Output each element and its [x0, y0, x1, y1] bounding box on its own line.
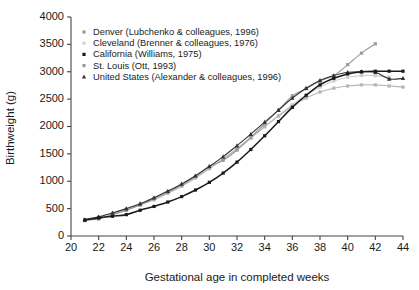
data-point-marker	[180, 195, 183, 198]
x-tick-label: 42	[369, 241, 381, 253]
data-point-marker	[208, 181, 211, 184]
x-axis-title: Gestational age in completed weeks	[145, 271, 330, 283]
x-tick-label: 26	[148, 241, 160, 253]
y-tick-label: 1000	[40, 174, 64, 186]
series-line	[85, 71, 403, 220]
data-point-marker	[222, 171, 225, 174]
series-line	[85, 85, 403, 221]
data-point-marker	[139, 209, 142, 212]
data-point-marker	[97, 216, 100, 219]
legend-item-label: California (Williams, 1975)	[93, 49, 202, 59]
x-tick-label: 32	[231, 241, 243, 253]
y-axis-title: Birthweight (g)	[4, 91, 16, 165]
data-point-marker	[374, 42, 377, 45]
chart-canvas: 05001000150020002500300035004000 2022242…	[0, 0, 419, 290]
data-point-marker	[125, 213, 128, 216]
legend-item-label: Denver (Lubchenko & colleagues, 1996)	[93, 27, 259, 37]
data-point-marker	[249, 136, 252, 139]
data-point-marker	[291, 106, 294, 109]
data-point-marker	[277, 120, 280, 123]
data-point-marker	[360, 74, 363, 77]
legend-item-label: United States (Alexander & colleagues, 1…	[93, 72, 281, 82]
y-tick-label: 3500	[40, 37, 64, 49]
data-point-marker	[346, 84, 349, 87]
x-tick-label: 24	[120, 241, 132, 253]
data-point-marker	[166, 200, 169, 203]
legend-item: California (Williams, 1975)	[82, 49, 201, 59]
data-point-marker	[360, 52, 363, 55]
data-point-marker	[346, 63, 349, 66]
data-point-marker	[346, 72, 349, 75]
chart-legend: Denver (Lubchenko & colleagues, 1996)Cle…	[82, 27, 281, 82]
data-point-marker	[360, 83, 363, 86]
legend-item: Cleveland (Brenner & colleagues, 1976)	[82, 38, 257, 48]
legend-item-label: St. Louis (Ott, 1993)	[93, 61, 176, 71]
y-tick-label: 1500	[40, 147, 64, 159]
data-point-marker	[346, 76, 349, 79]
data-point-marker	[111, 215, 114, 218]
data-point-marker	[401, 70, 404, 73]
series-3	[83, 83, 404, 222]
x-tick-label: 44	[397, 241, 409, 253]
data-point-marker	[318, 83, 321, 86]
birthweight-gestational-age-chart: 05001000150020002500300035004000 2022242…	[0, 0, 419, 290]
x-tick-label: 38	[314, 241, 326, 253]
data-point-marker	[332, 87, 335, 90]
data-point-marker	[152, 205, 155, 208]
data-point-marker	[194, 188, 197, 191]
data-point-marker	[82, 74, 86, 78]
y-tick-label: 2000	[40, 119, 64, 131]
x-tick-label: 40	[342, 241, 354, 253]
x-tick-label: 20	[65, 241, 77, 253]
data-point-marker	[82, 42, 85, 45]
x-tick-label: 36	[286, 241, 298, 253]
legend-item: St. Louis (Ott, 1993)	[82, 61, 176, 71]
y-tick-label: 2500	[40, 92, 64, 104]
data-point-marker	[374, 70, 377, 73]
series-line	[85, 72, 403, 220]
x-tick-label: 22	[93, 241, 105, 253]
data-point-marker	[83, 219, 86, 222]
legend-item: United States (Alexander & colleagues, 1…	[82, 72, 281, 82]
x-tick-label: 34	[259, 241, 271, 253]
data-point-marker	[318, 90, 321, 93]
data-point-marker	[235, 148, 238, 151]
data-point-marker	[360, 70, 363, 73]
series-2	[83, 70, 404, 222]
data-point-marker	[332, 79, 335, 82]
y-tick-label: 500	[46, 202, 64, 214]
y-tick-label: 3000	[40, 65, 64, 77]
x-tick-label: 30	[203, 241, 215, 253]
legend-item: Denver (Lubchenko & colleagues, 1996)	[82, 27, 259, 37]
data-point-marker	[388, 70, 391, 73]
x-tick-label: 28	[176, 241, 188, 253]
data-point-marker	[277, 114, 280, 117]
data-point-marker	[263, 134, 266, 137]
y-tick-label: 4000	[40, 10, 64, 22]
data-point-marker	[374, 74, 377, 77]
data-point-marker	[401, 85, 404, 88]
series-4	[83, 69, 406, 221]
data-point-marker	[249, 148, 252, 151]
data-point-marker	[235, 160, 238, 163]
x-axis-ticks: 20222426283032343638404244	[65, 236, 409, 253]
data-point-marker	[388, 84, 391, 87]
y-tick-label: 0	[58, 229, 64, 241]
data-point-marker	[374, 83, 377, 86]
data-point-marker	[222, 159, 225, 162]
y-axis-ticks: 05001000150020002500300035004000	[40, 10, 71, 241]
data-point-marker	[305, 94, 308, 97]
legend-item-label: Cleveland (Brenner & colleagues, 1976)	[93, 38, 258, 48]
data-point-marker	[82, 30, 85, 33]
data-point-marker	[332, 77, 335, 80]
data-point-marker	[82, 53, 85, 56]
data-point-marker	[82, 64, 85, 67]
